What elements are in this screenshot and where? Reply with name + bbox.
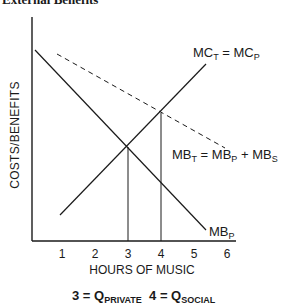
mbp-line (35, 50, 206, 230)
x-tick-6: 6 (220, 247, 234, 261)
x-tick-4: 4 (154, 247, 168, 261)
x-tick-2: 2 (88, 247, 102, 261)
x-tick-3: 3 (121, 247, 135, 261)
mc-line (60, 64, 206, 215)
mbt-dashed-line (57, 54, 225, 148)
mbt-curve-label: MBT = MBP + MBS (172, 148, 278, 164)
quantity-legend: 3 = QPRIVATE 4 = QSOCIAL (72, 288, 215, 303)
x-tick-1: 1 (55, 247, 69, 261)
mbp-curve-label: MBP (209, 225, 235, 241)
y-axis-label: COSTS/BENEFITS (8, 80, 22, 190)
x-axis-label: HOURS OF MUSIC (72, 263, 212, 277)
mc-curve-label: MCT = MCP (193, 46, 260, 62)
x-tick-5: 5 (187, 247, 201, 261)
